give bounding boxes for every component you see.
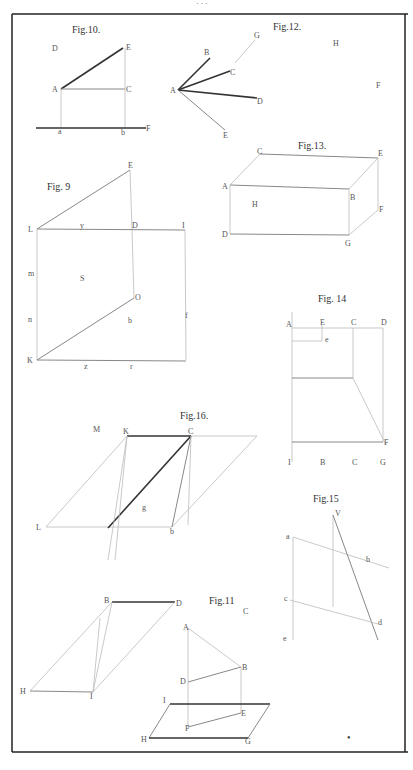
label-O: O: [135, 293, 141, 302]
label-G: G: [245, 737, 251, 746]
label-E: E: [223, 131, 228, 140]
label-H: H: [20, 687, 26, 696]
label-F: F: [376, 81, 381, 90]
label-M: M: [93, 425, 100, 434]
label-V: V: [335, 509, 341, 518]
fig9-title: Fig. 9: [47, 181, 70, 192]
label-B: B: [204, 48, 209, 57]
label-H: H: [333, 39, 339, 48]
figure-9: Fig. 9 E L y D I m S O n b f K z r: [27, 161, 188, 371]
label-r: r: [130, 362, 133, 371]
label-c: c: [284, 594, 288, 603]
label-z: z: [84, 362, 88, 371]
figure-14: Fig. 14 A E C D e F I B C G: [286, 293, 389, 467]
fig15-title: Fig.15: [313, 493, 339, 504]
label-B: B: [350, 193, 355, 202]
label-D: D: [52, 44, 58, 53]
label-g: g: [142, 503, 146, 512]
label-D: D: [257, 97, 263, 106]
label-D: D: [132, 221, 138, 230]
fig16-title: Fig.16.: [180, 410, 208, 421]
label-B: B: [104, 596, 109, 605]
label-C: C: [257, 147, 262, 156]
page-mark: •: [347, 732, 351, 743]
label-G: G: [380, 458, 386, 467]
label-E: E: [378, 149, 383, 158]
label-G: G: [254, 31, 260, 40]
label-F: F: [185, 724, 190, 733]
label-C: C: [126, 85, 131, 94]
plate-frame: [12, 14, 408, 752]
figure-lower-left: B D H I: [20, 596, 182, 701]
label-F: F: [384, 438, 389, 447]
header-mark: · · ·: [196, 0, 208, 8]
label-C: C: [188, 427, 193, 436]
label-E: E: [320, 318, 325, 327]
label-b: b: [366, 555, 370, 564]
label-F: F: [379, 205, 384, 214]
label-E: E: [126, 43, 131, 52]
label-A: A: [286, 320, 292, 329]
label-B: B: [320, 458, 325, 467]
label-K: K: [27, 356, 33, 365]
label-y: y: [80, 221, 84, 230]
fig12-title: Fig.12.: [273, 21, 301, 32]
label-L: L: [28, 225, 33, 234]
figure-10: Fig.10. D E A C a b F: [36, 24, 151, 137]
label-d: d: [378, 618, 382, 627]
label-C: C: [230, 68, 235, 77]
label-e: e: [283, 634, 287, 643]
label-a: a: [58, 127, 62, 136]
fig11-title: Fig.11: [209, 595, 234, 606]
label-H: H: [141, 735, 147, 744]
label-A: A: [222, 182, 228, 191]
fig14-title: Fig. 14: [318, 293, 346, 304]
label-I: I: [288, 458, 291, 467]
fig10-title: Fig.10.: [72, 24, 100, 35]
figure-13: Fig.13. C E A B H F D G: [222, 140, 384, 248]
geometry-plate: · · · Fig.10. D E A C a b F Fig.12. B G …: [0, 0, 413, 770]
label-C: C: [351, 318, 356, 327]
label-E: E: [128, 161, 133, 170]
label-A: A: [170, 86, 176, 95]
label-D: D: [180, 677, 186, 686]
label-A: A: [52, 85, 58, 94]
label-C: C: [243, 607, 248, 616]
label-m: m: [28, 269, 35, 278]
label-L: L: [36, 523, 41, 532]
label-b: b: [121, 128, 125, 137]
label-I: I: [163, 696, 166, 705]
label-K: K: [123, 427, 129, 436]
figure-12: Fig.12. B G C A D E H F: [170, 21, 381, 140]
label-I: I: [90, 692, 93, 701]
label-b: b: [128, 316, 132, 325]
fig13-title: Fig.13.: [298, 140, 326, 151]
label-D: D: [176, 599, 182, 608]
label-G: G: [345, 239, 351, 248]
label-a: a: [286, 532, 290, 541]
figure-16: Fig.16. M K C g L b: [36, 410, 257, 560]
label-e: e: [325, 335, 329, 344]
label-E: E: [241, 709, 246, 718]
label-C: C: [352, 458, 357, 467]
figure-15: Fig.15 V a b c d e: [283, 493, 389, 643]
label-f: f: [185, 311, 188, 320]
label-H: H: [252, 200, 258, 209]
label-B: B: [242, 663, 247, 672]
label-D: D: [381, 318, 387, 327]
label-A: A: [183, 623, 189, 632]
label-I: I: [182, 221, 185, 230]
label-D: D: [222, 230, 228, 239]
label-F: F: [146, 124, 151, 133]
label-b: b: [170, 527, 174, 536]
label-n: n: [28, 315, 32, 324]
label-S: S: [80, 274, 84, 283]
